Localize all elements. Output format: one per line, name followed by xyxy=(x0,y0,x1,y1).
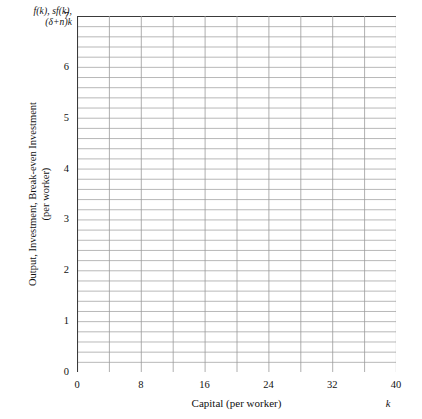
x-tick-label: 8 xyxy=(129,380,153,390)
figure-canvas: f(k), sf(k), (δ+n)k Output, Investment, … xyxy=(0,0,422,419)
x-tick-label: 40 xyxy=(384,380,408,390)
y-tick-label: 6 xyxy=(51,62,69,72)
x-tick-label: 16 xyxy=(193,380,217,390)
y-axis-title-line2: (per worker) xyxy=(39,102,52,286)
x-axis-title: Capital (per worker) xyxy=(77,397,396,409)
x-axis-variable-label: k xyxy=(378,398,398,409)
y-tick-label: 1 xyxy=(51,316,69,326)
y-tick-label: 0 xyxy=(51,367,69,377)
plot-area xyxy=(77,16,396,372)
x-tick-label: 0 xyxy=(65,380,89,390)
y-tick-label: 5 xyxy=(51,113,69,123)
y-tick-label: 2 xyxy=(51,265,69,275)
y-tick-label: 3 xyxy=(51,214,69,224)
grid-svg xyxy=(77,16,396,372)
x-tick-label: 24 xyxy=(256,380,280,390)
y-axis-title-line1: Output, Investment, Break-even Investmen… xyxy=(27,102,38,286)
x-tick-label: 32 xyxy=(320,380,344,390)
y-tick-label: 4 xyxy=(51,164,69,174)
y-tick-label: 7 xyxy=(51,11,69,21)
